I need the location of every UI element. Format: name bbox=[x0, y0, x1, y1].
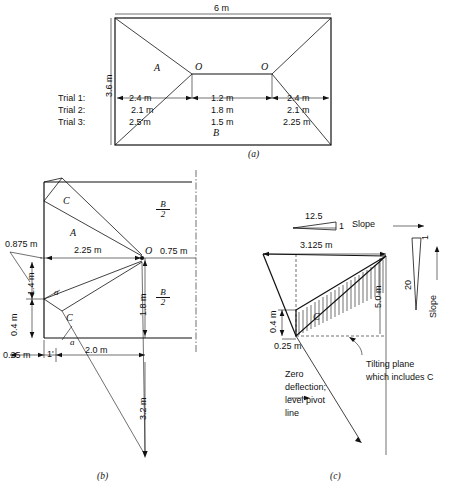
panel-c-annotation-right-line-2: which includes C bbox=[366, 373, 434, 382]
panel-c-slope-v-label: Slope bbox=[429, 295, 438, 318]
panel-c-annotation-left-line-4: line bbox=[285, 409, 299, 418]
panel-c-graphics bbox=[0, 0, 457, 491]
panel-c-dim-bottom: 0.25 m bbox=[274, 342, 302, 351]
panel-c-dim-top: 3.125 m bbox=[300, 241, 333, 250]
panel-c-annotation-left-line-3: level pivot bbox=[285, 396, 325, 405]
panel-c-annotation-left-line-1: Zero bbox=[285, 370, 304, 379]
panel-c-slope-h-label: Slope bbox=[352, 220, 375, 229]
panel-c-dim-right: 5.0 m bbox=[374, 285, 383, 308]
figure-root: 6 m 3.6 m A B O O Trial 1: Trial 2: Tria… bbox=[0, 0, 457, 491]
panel-c-caption: (c) bbox=[330, 472, 341, 482]
panel-c-slope-h-run: 1 bbox=[339, 222, 344, 231]
panel-c-region-c: C bbox=[313, 312, 320, 322]
panel-c-slope-v-rise: 1 bbox=[421, 235, 430, 240]
panel-c-annotation-left-line-2: deflection; bbox=[285, 383, 326, 392]
panel-c-annotation-right-line-1: Tilting plane bbox=[366, 360, 414, 369]
panel-c-slope-v-run: 20 bbox=[404, 280, 413, 290]
panel-c-slope-h-rise: 12.5 bbox=[305, 212, 323, 221]
panel-c-dim-vertical-small: 0.4 m bbox=[269, 310, 278, 333]
